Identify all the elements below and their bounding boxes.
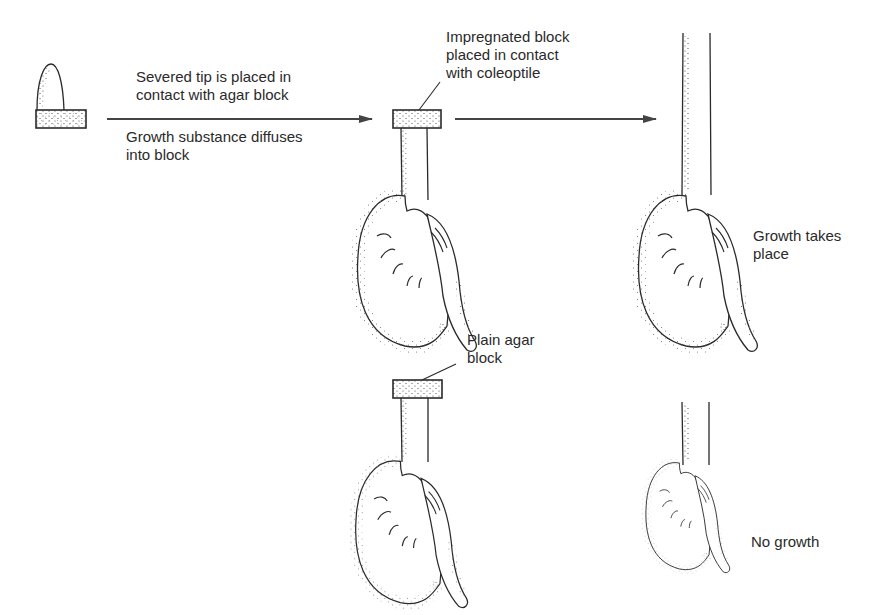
impregnated-leader-line <box>419 82 440 110</box>
plain-agar-block <box>393 380 442 398</box>
plain-leader-line <box>422 364 456 380</box>
growth-takes-place-label: Growth takes place <box>753 227 841 263</box>
coleoptile-grown-figure <box>639 33 758 351</box>
impregnated-agar-block <box>393 110 441 128</box>
diagram-canvas <box>0 0 891 615</box>
coleoptile-no-growth-figure <box>646 402 730 573</box>
coleoptile-plain-figure <box>356 364 468 608</box>
severed-tip-on-agar-figure <box>36 64 86 128</box>
impregnated-block-label: Impregnated block placed in contact with… <box>446 28 569 82</box>
coleoptile-impregnated-figure <box>358 82 477 351</box>
plain-agar-label: Plain agar block <box>467 331 535 367</box>
step1-bottom-label: Growth substance diffuses into block <box>126 128 302 164</box>
no-growth-label: No growth <box>751 533 819 551</box>
step1-top-label: Severed tip is placed in contact with ag… <box>136 68 291 104</box>
